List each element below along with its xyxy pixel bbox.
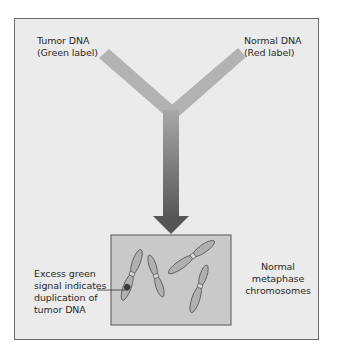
tumor-dna-label: Tumor DNA (Green label) [37, 35, 98, 59]
normal-chromosomes-label: Normal metaphase chromosomes [244, 261, 312, 297]
excess-signal-label: Excess green signal indicates duplicatio… [34, 268, 106, 316]
normal-dna-label: Normal DNA (Red label) [244, 35, 301, 59]
tumor-dna-arm [99, 49, 176, 118]
chromosome-panel [97, 235, 231, 325]
normal-dna-arm [168, 48, 246, 118]
merge-arrow [153, 110, 189, 234]
